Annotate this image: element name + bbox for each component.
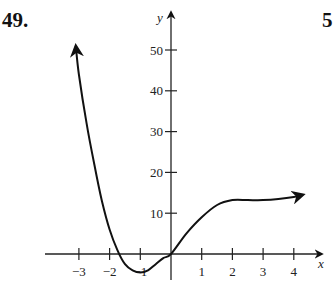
- x-axis-label: x: [317, 256, 324, 271]
- function-curve: [76, 46, 303, 273]
- x-tick-label: −2: [103, 264, 117, 279]
- y-tick-label: 20: [150, 165, 163, 180]
- y-tick-label: 50: [150, 43, 163, 58]
- x-tick-label: 1: [198, 264, 205, 279]
- y-tick-label: 10: [150, 206, 163, 221]
- x-tick-label: −3: [72, 264, 86, 279]
- y-axis-label: y: [155, 10, 163, 25]
- x-tick-label: 3: [260, 264, 267, 279]
- x-tick-label: 4: [291, 264, 298, 279]
- y-tick-label: 40: [150, 83, 163, 98]
- x-tick-label: 2: [229, 264, 236, 279]
- y-tick-label: 30: [150, 124, 163, 139]
